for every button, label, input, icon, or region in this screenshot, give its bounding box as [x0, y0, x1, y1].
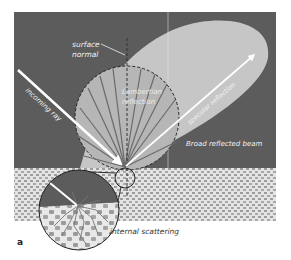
internal-scattering-label: internal scattering [110, 227, 179, 236]
surface-normal-label-line1: surface [72, 40, 100, 49]
panel-label: a [17, 237, 23, 247]
broad-reflected-beam-label: Broad reflected beam [186, 140, 263, 148]
reflection-diagram: surface normal Lambertian reflection inc… [0, 0, 291, 260]
surface-normal-label-line2: normal [72, 50, 99, 59]
lambertian-label-line2: reflection [122, 98, 155, 106]
lambertian-label-line1: Lambertian [122, 88, 162, 96]
